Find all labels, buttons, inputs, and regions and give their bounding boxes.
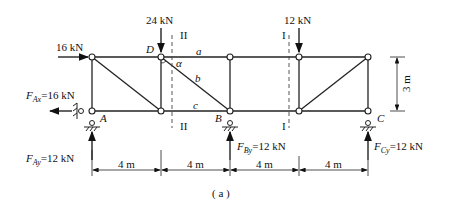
reaction-FAx-label: FAx=16 kN [26,90,75,104]
truss-diagram [0,0,450,214]
node-D-label: D [146,44,154,55]
dim-height-label: 3 m [401,75,412,92]
dim-span2-label: 4 m [187,159,204,170]
reaction-FBy-label: FBy=12 kN [237,141,286,155]
member-a-label: a [196,46,202,57]
dim-span1-label: 4 m [118,159,135,170]
section-I-top-label: I [282,30,286,41]
member-c-label: c [193,100,198,111]
load-16kN-label: 16 kN [56,42,83,53]
reaction-FCy-label: FCy=12 kN [374,141,423,155]
load-12kN-label: 12 kN [284,15,311,26]
angle-alpha-label: α [176,58,182,69]
dim-span4-label: 4 m [325,159,342,170]
node-C-label: C [377,113,384,124]
node-B-label: B [215,113,222,124]
load-24kN-label: 24 kN [146,15,173,26]
dim-span3-label: 4 m [256,159,273,170]
section-II-bottom-label: II [180,121,187,132]
section-II-top-label: II [180,30,187,41]
reaction-FAy-label: FAy=12 kN [26,153,74,167]
member-b-label: b [195,73,201,84]
section-I-bottom-label: I [282,121,286,132]
figure-caption: ( a ) [212,188,230,199]
node-A-label: A [100,113,107,124]
